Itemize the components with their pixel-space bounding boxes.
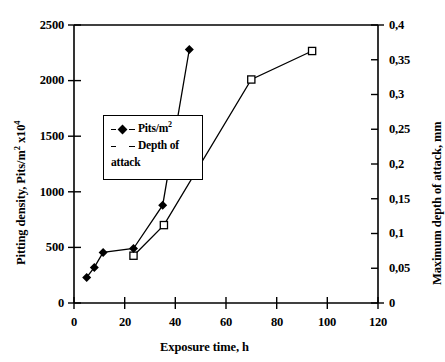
x-axis-title: Exposure time, h (160, 340, 249, 355)
y-tick-label-0: 0 (16, 296, 64, 311)
y2-tick-label-01: 0,1 (389, 226, 404, 241)
y2-tick-label-0: 0 (389, 296, 395, 311)
right-axis-tick-stubs (378, 25, 384, 303)
legend-label-depth: Depth of (138, 139, 179, 151)
legend-entry-pits: Pits/m2 (111, 122, 172, 134)
y2-tick-label-035: 0,35 (389, 53, 410, 68)
chart-legend: Pits/m2 Depth of attack (103, 115, 203, 180)
left-axis-tick-stubs (68, 25, 74, 303)
y-tick-label-2500: 2500 (16, 18, 64, 33)
y2-tick-label-03: 0,3 (389, 87, 404, 102)
right-axis-ticks (371, 25, 378, 303)
y-axis-title-exp-area: 2 (12, 146, 22, 150)
y-tick-label-2000: 2000 (16, 73, 64, 88)
x-tick-label-0: 0 (54, 315, 94, 330)
x-tick-label-40: 40 (155, 315, 195, 330)
x-tick-label-100: 100 (307, 315, 347, 330)
y-axis-title-main: Pitting density, Pits/m (14, 150, 28, 265)
y2-tick-label-04: 0,4 (389, 18, 404, 33)
legend-marker-dashed-line-icon (111, 142, 137, 151)
legend-label-pits-exp: 2 (168, 120, 172, 129)
legend-entry-depth: Depth of (111, 139, 179, 151)
y2-tick-label-025: 0,25 (389, 122, 410, 137)
legend-marker-filled-diamond-icon (111, 125, 137, 134)
y2-tick-label-015: 0,15 (389, 192, 410, 207)
y2-tick-label-02: 0,2 (389, 157, 404, 172)
x-tick-label-20: 20 (105, 315, 145, 330)
y2-axis-title: Maximum depth of attack, mm (430, 121, 445, 285)
legend-entry-depth-continued: attack (111, 156, 140, 168)
y-axis-title-scale: x10 (14, 125, 28, 146)
y-axis-title-exp-scale: 4 (12, 120, 22, 124)
left-axis-ticks (74, 25, 81, 303)
x-tick-label-120: 120 (358, 315, 398, 330)
x-tick-label-60: 60 (206, 315, 246, 330)
y2-tick-label-005: 0,05 (389, 261, 410, 276)
x-tick-label-80: 80 (257, 315, 297, 330)
legend-label-pits: Pits/m (138, 122, 168, 134)
y-axis-title: Pitting density, Pits/m2 x104 (14, 120, 29, 265)
